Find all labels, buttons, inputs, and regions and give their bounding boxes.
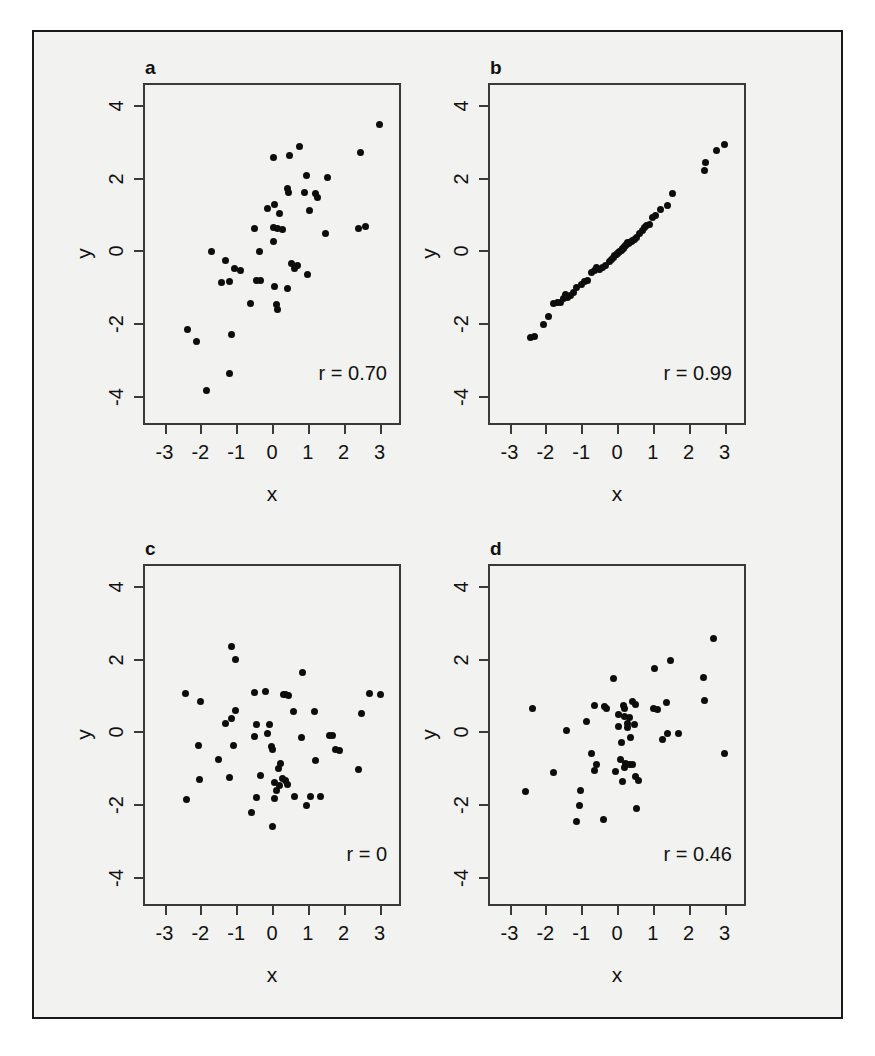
x-tick-c-4	[308, 906, 310, 915]
data-point	[631, 721, 638, 728]
data-point	[301, 189, 308, 196]
data-point	[317, 793, 324, 800]
x-axis-label-a: x	[242, 483, 302, 504]
y-tick-label-a-4: -4	[106, 380, 126, 414]
data-point	[285, 189, 292, 196]
data-point	[306, 207, 313, 214]
data-point	[311, 708, 318, 715]
y-tick-c-2	[134, 731, 143, 733]
data-point	[251, 733, 258, 740]
data-point	[291, 265, 298, 272]
data-point	[232, 656, 239, 663]
data-point	[247, 300, 254, 307]
x-tick-label-b-1: -2	[525, 442, 565, 462]
x-tick-label-c-2: -1	[216, 923, 256, 943]
correlation-annotation-b: r = 0.99	[664, 363, 732, 383]
x-tick-b-4	[653, 425, 655, 434]
data-point	[269, 746, 276, 753]
y-tick-label-d-4: -4	[451, 861, 471, 895]
y-tick-c-3	[134, 804, 143, 806]
x-tick-b-5	[689, 425, 691, 434]
data-point	[284, 285, 291, 292]
data-point	[230, 742, 237, 749]
y-tick-label-d-2: 0	[451, 715, 471, 749]
data-point	[251, 689, 258, 696]
x-tick-d-5	[689, 906, 691, 915]
y-tick-label-d-0: 4	[451, 570, 471, 604]
y-tick-label-c-4: -4	[106, 861, 126, 895]
data-point	[701, 167, 708, 174]
x-tick-label-b-2: -1	[561, 442, 601, 462]
x-tick-label-d-0: -3	[490, 923, 530, 943]
data-point	[266, 721, 273, 728]
y-tick-label-a-2: 0	[106, 234, 126, 268]
x-tick-label-c-1: -2	[180, 923, 220, 943]
data-point	[710, 635, 717, 642]
data-point	[251, 225, 258, 232]
y-tick-label-c-1: 2	[106, 643, 126, 677]
data-point	[621, 705, 628, 712]
y-tick-label-a-1: 2	[106, 162, 126, 196]
data-point	[577, 787, 584, 794]
figure-caption	[36, 1041, 836, 1056]
x-tick-label-a-0: -3	[145, 442, 185, 462]
data-point	[232, 707, 239, 714]
data-point	[632, 701, 639, 708]
y-axis-label-c: y	[73, 705, 94, 765]
data-point	[621, 764, 628, 771]
data-point	[654, 706, 661, 713]
y-tick-c-4	[134, 877, 143, 879]
data-point	[713, 147, 720, 154]
data-point	[675, 730, 682, 737]
data-point	[264, 730, 271, 737]
x-tick-label-b-0: -3	[490, 442, 530, 462]
data-point	[336, 747, 343, 754]
panel-letter-a: a	[145, 58, 156, 77]
data-point	[290, 708, 297, 715]
y-tick-a-2	[134, 250, 143, 252]
x-tick-d-3	[617, 906, 619, 915]
data-point	[222, 720, 229, 727]
y-tick-label-c-2: 0	[106, 715, 126, 749]
data-point	[270, 238, 277, 245]
correlation-annotation-c: r = 0	[346, 844, 387, 864]
data-point	[303, 172, 310, 179]
data-point	[218, 279, 225, 286]
x-tick-d-2	[581, 906, 583, 915]
x-tick-label-c-4: 1	[288, 923, 328, 943]
y-tick-d-1	[479, 659, 488, 661]
y-tick-b-4	[479, 396, 488, 398]
x-tick-b-2	[581, 425, 583, 434]
x-tick-a-3	[272, 425, 274, 434]
data-point	[197, 698, 204, 705]
y-tick-c-1	[134, 659, 143, 661]
x-tick-label-d-4: 1	[633, 923, 673, 943]
y-tick-a-3	[134, 323, 143, 325]
y-axis-label-b: y	[418, 224, 439, 284]
y-tick-label-b-0: 4	[451, 89, 471, 123]
y-tick-label-c-3: -2	[106, 788, 126, 822]
x-tick-label-d-3: 0	[597, 923, 637, 943]
data-point	[612, 768, 619, 775]
data-point	[279, 226, 286, 233]
y-tick-label-b-3: -2	[451, 307, 471, 341]
x-tick-d-6	[725, 906, 727, 915]
x-tick-b-0	[510, 425, 512, 434]
y-tick-b-3	[479, 323, 488, 325]
y-tick-label-d-3: -2	[451, 788, 471, 822]
y-tick-d-3	[479, 804, 488, 806]
y-tick-d-0	[479, 586, 488, 588]
y-tick-d-4	[479, 877, 488, 879]
y-tick-b-1	[479, 178, 488, 180]
data-point	[550, 300, 557, 307]
data-point	[182, 690, 189, 697]
data-point	[618, 739, 625, 746]
data-point	[193, 338, 200, 345]
panel-letter-c: c	[145, 539, 156, 558]
data-point	[228, 331, 235, 338]
x-tick-label-d-1: -2	[525, 923, 565, 943]
data-point	[563, 727, 570, 734]
x-tick-c-2	[236, 906, 238, 915]
x-tick-label-a-2: -1	[216, 442, 256, 462]
panel-letter-d: d	[490, 539, 502, 558]
